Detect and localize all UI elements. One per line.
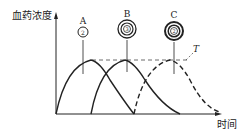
capsule-b-number: 3	[125, 26, 128, 32]
threshold-label: T	[193, 44, 200, 54]
x-axis-label: 时间	[217, 118, 237, 130]
capsule-b-label: B	[124, 9, 131, 19]
y-axis-label: 血药浓度	[12, 9, 52, 21]
concentration-time-diagram: 2 3 2 A B C T 血药浓度 时间	[0, 0, 247, 138]
capsule-a-label: A	[79, 16, 87, 26]
capsule-a-number: 2	[81, 29, 85, 36]
capsule-c-label: C	[171, 10, 178, 20]
curve-c	[134, 60, 220, 114]
threshold-line	[92, 53, 193, 60]
capsule-c-number: 2	[172, 28, 175, 34]
axes	[54, 12, 222, 116]
curve-a	[56, 60, 134, 114]
